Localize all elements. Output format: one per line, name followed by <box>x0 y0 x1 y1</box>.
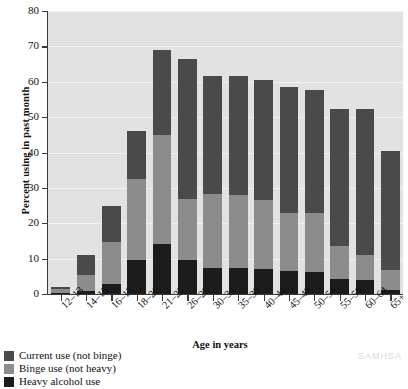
y-tick-label: 80 <box>0 5 39 16</box>
legend-item: Binge use (not heavy) <box>4 362 121 375</box>
bar-segment <box>102 242 121 284</box>
x-axis-title: Age in years <box>150 339 290 350</box>
bar-segment <box>153 135 172 245</box>
bar <box>229 76 248 294</box>
bar-segment <box>153 50 172 135</box>
watermark: SAMHSA <box>358 351 402 361</box>
bar-segment <box>229 195 248 268</box>
bar-segment <box>77 255 96 275</box>
legend-swatch <box>4 364 14 374</box>
bar <box>153 50 172 294</box>
bar-segment <box>127 179 146 260</box>
legend-item: Current use (not binge) <box>4 349 121 362</box>
bar-segment <box>356 255 375 280</box>
legend-label: Current use (not binge) <box>19 350 121 361</box>
y-tick-label: 0 <box>0 288 39 299</box>
bars-layer <box>48 11 403 294</box>
bar-segment <box>330 246 349 279</box>
y-tick-label: 20 <box>0 217 39 228</box>
bar <box>305 90 324 294</box>
legend-item: Heavy alcohol use <box>4 375 121 388</box>
bar-segment <box>254 80 273 200</box>
bar <box>356 109 375 294</box>
bar <box>280 87 299 294</box>
bar-segment <box>203 76 222 194</box>
y-tick-label: 60 <box>0 76 39 87</box>
legend-swatch <box>4 351 14 361</box>
y-tick <box>42 294 48 295</box>
bar-segment <box>280 87 299 213</box>
legend-label: Binge use (not heavy) <box>19 363 116 374</box>
bar-segment <box>305 90 324 214</box>
bar-segment <box>178 59 197 199</box>
bar <box>178 59 197 294</box>
y-tick-label: 70 <box>0 40 39 51</box>
bar <box>102 206 121 294</box>
bar <box>127 131 146 294</box>
bar <box>330 109 349 294</box>
bar-segment <box>305 213 324 271</box>
bar-segment <box>178 199 197 261</box>
y-tick-label: 10 <box>0 253 39 264</box>
bar-segment <box>280 213 299 270</box>
bar-segment <box>330 109 349 246</box>
stacked-bar-chart: Percent using in past month 010203040506… <box>0 0 408 389</box>
bar-segment <box>356 109 375 255</box>
bar <box>254 80 273 294</box>
legend-label: Heavy alcohol use <box>19 376 100 387</box>
bar-segment <box>229 76 248 195</box>
bar-segment <box>254 200 273 269</box>
y-tick-label: 40 <box>0 147 39 158</box>
bar-segment <box>381 151 400 270</box>
chart-legend: Current use (not binge)Binge use (not he… <box>4 349 121 388</box>
y-tick-label: 50 <box>0 111 39 122</box>
bar <box>203 76 222 294</box>
legend-swatch <box>4 377 14 387</box>
bar <box>381 151 400 294</box>
bar-segment <box>127 131 146 179</box>
bar-segment <box>203 194 222 268</box>
y-tick-label: 30 <box>0 182 39 193</box>
bar-segment <box>102 206 121 242</box>
